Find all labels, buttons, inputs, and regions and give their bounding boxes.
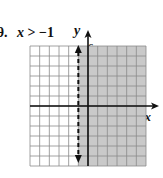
coordinate-plane [0,0,163,178]
